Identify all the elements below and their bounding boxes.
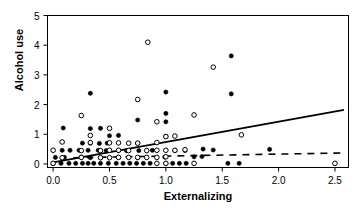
data-point-filled — [53, 155, 57, 159]
data-point-filled — [121, 161, 125, 165]
data-point-open — [173, 134, 178, 139]
data-point-filled — [171, 161, 175, 165]
data-point-filled — [267, 147, 271, 151]
y-tick-label: 1 — [34, 129, 40, 140]
data-point-filled — [164, 90, 168, 94]
data-point-open — [135, 97, 140, 102]
data-point-open — [155, 148, 160, 153]
data-point-open — [155, 155, 160, 160]
data-point-filled — [98, 161, 102, 165]
data-point-open — [126, 141, 131, 146]
data-point-filled — [88, 156, 92, 160]
x-axis-ticks: 0.00.51.01.52.02.5 — [46, 168, 342, 186]
data-point-filled — [141, 161, 145, 165]
data-point-open — [144, 155, 149, 160]
data-point-filled — [98, 126, 102, 130]
data-point-filled — [107, 134, 111, 138]
data-point-open — [79, 155, 84, 160]
data-point-filled — [229, 92, 233, 96]
data-point-open — [192, 113, 197, 118]
dashed-regression-line — [73, 153, 344, 158]
data-point-open — [79, 113, 84, 118]
y-tick-label: 0 — [34, 159, 40, 170]
data-point-filled — [200, 154, 204, 158]
data-point-open — [51, 148, 56, 153]
data-point-filled — [237, 161, 241, 165]
data-point-open — [79, 148, 84, 153]
x-tick-label: 0.0 — [46, 175, 60, 186]
data-point-filled — [61, 126, 65, 130]
data-point-filled — [60, 148, 64, 152]
x-tick-label: 0.5 — [103, 175, 117, 186]
data-point-open — [51, 161, 56, 166]
data-point-open — [107, 141, 112, 146]
data-point-filled — [192, 155, 196, 159]
data-point-open — [88, 140, 93, 145]
data-point-filled — [68, 148, 72, 152]
data-point-filled — [80, 161, 84, 165]
data-point-filled — [201, 147, 205, 151]
data-point-filled — [177, 161, 181, 165]
data-point-filled — [97, 141, 101, 145]
data-point-open — [164, 134, 169, 139]
data-point-filled — [114, 161, 118, 165]
plot-canvas: 0.00.51.01.52.02.5 012345 — [0, 0, 360, 210]
data-point-open — [164, 155, 169, 160]
data-point-open — [107, 148, 112, 153]
data-point-open — [192, 161, 197, 166]
data-point-open — [116, 155, 121, 160]
data-point-open — [155, 119, 160, 124]
data-point-filled — [116, 133, 120, 137]
data-point-open — [211, 65, 216, 70]
regression-lines — [53, 110, 344, 163]
data-point-filled — [164, 120, 168, 124]
data-point-filled — [211, 148, 215, 152]
y-axis-ticks: 012345 — [34, 11, 48, 170]
x-tick-label: 1.5 — [215, 175, 229, 186]
data-point-filled — [106, 161, 110, 165]
data-point-open — [146, 40, 151, 45]
data-point-filled — [80, 141, 84, 145]
data-point-filled — [128, 161, 132, 165]
data-point-filled — [88, 91, 92, 95]
data-point-open — [116, 148, 121, 153]
data-point-open — [126, 155, 131, 160]
data-point-filled — [184, 161, 188, 165]
data-point-open — [60, 140, 65, 145]
data-point-filled — [74, 161, 78, 165]
data-point-open — [126, 148, 131, 153]
data-point-open — [173, 148, 178, 153]
data-point-open — [155, 161, 160, 166]
data-point-filled — [150, 148, 154, 152]
data-point-open — [164, 148, 169, 153]
data-point-filled — [88, 127, 92, 131]
data-point-open — [60, 155, 65, 160]
data-point-open — [155, 140, 160, 145]
data-point-open — [88, 133, 93, 138]
x-tick-label: 2.5 — [328, 175, 342, 186]
data-point-filled — [164, 111, 168, 115]
y-tick-label: 5 — [34, 11, 40, 22]
data-point-open — [333, 161, 338, 166]
data-point-open — [116, 141, 121, 146]
data-point-filled — [59, 161, 63, 165]
x-tick-label: 1.0 — [159, 175, 173, 186]
data-point-open — [239, 133, 244, 138]
data-point-open — [135, 141, 140, 146]
data-point-filled — [86, 148, 90, 152]
data-point-filled — [67, 161, 71, 165]
data-point-open — [164, 161, 169, 166]
data-point-open — [98, 155, 103, 160]
y-tick-label: 2 — [34, 100, 40, 111]
data-point-filled — [92, 161, 96, 165]
scatter-plot-figure: Alcohol use Externalizing 0.00.51.01.52.… — [0, 0, 360, 210]
data-point-filled — [148, 161, 152, 165]
data-point-open — [107, 126, 112, 131]
y-tick-label: 3 — [34, 70, 40, 81]
x-tick-label: 2.0 — [272, 175, 286, 186]
data-point-filled — [134, 161, 138, 165]
data-points — [51, 40, 337, 166]
data-point-filled — [136, 118, 140, 122]
data-point-filled — [137, 148, 141, 152]
data-point-open — [135, 155, 140, 160]
